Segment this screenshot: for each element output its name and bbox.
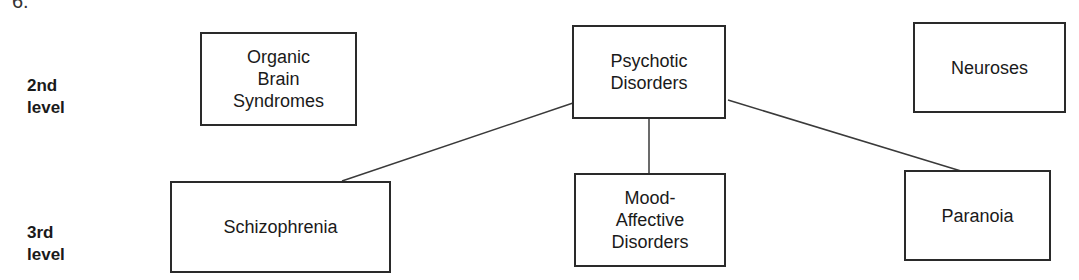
- level-label-2nd: 2nd level: [27, 75, 65, 119]
- level-number: 2nd: [27, 75, 65, 97]
- edge-psychotic-schizophrenia: [342, 103, 573, 181]
- node-paranoia: Paranoia: [904, 170, 1051, 261]
- node-label: Organic Brain Syndromes: [233, 46, 324, 112]
- level-label-3rd: 3rd level: [27, 222, 65, 266]
- node-label: Mood- Affective Disorders: [611, 187, 688, 253]
- node-label: Neuroses: [951, 57, 1028, 79]
- level-number: 3rd: [27, 222, 65, 244]
- level-word: level: [27, 97, 65, 119]
- node-mood-affective-disorders: Mood- Affective Disorders: [574, 173, 726, 267]
- node-neuroses: Neuroses: [913, 22, 1066, 113]
- node-label: Psychotic Disorders: [610, 50, 687, 94]
- node-schizophrenia: Schizophrenia: [170, 181, 391, 273]
- node-label: Schizophrenia: [223, 216, 337, 238]
- node-psychotic-disorders: Psychotic Disorders: [572, 25, 726, 119]
- node-label: Paranoia: [941, 205, 1013, 227]
- level-word: level: [27, 244, 65, 266]
- node-organic-brain-syndromes: Organic Brain Syndromes: [200, 32, 357, 126]
